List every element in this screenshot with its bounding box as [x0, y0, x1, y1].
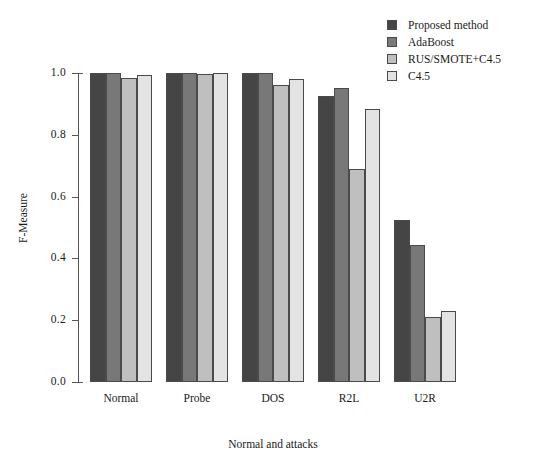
- y-axis-tick-label: 0.8: [0, 128, 66, 140]
- y-axis-tick: [72, 258, 78, 259]
- y-axis-tick: [72, 382, 78, 383]
- y-axis-tick-label: 0.4: [0, 251, 66, 263]
- bar-normal-3: [137, 75, 153, 382]
- legend-label: C4.5: [408, 70, 430, 82]
- bar-r2l-3: [365, 109, 381, 382]
- bar-r2l-2: [349, 169, 365, 382]
- y-axis-spine: [78, 73, 79, 382]
- x-axis-label-u2r: U2R: [387, 392, 463, 404]
- bar-u2r-3: [441, 311, 457, 382]
- x-axis-label-probe: Probe: [159, 392, 235, 404]
- legend-item: AdaBoost: [387, 34, 547, 50]
- legend-swatch-icon: [387, 71, 397, 81]
- bar-chart: 0.00.20.40.60.81.0 F-Measure NormalProbe…: [0, 0, 551, 469]
- bar-u2r-0: [394, 220, 410, 382]
- bar-u2r-1: [410, 245, 426, 383]
- legend-swatch-icon: [387, 37, 397, 47]
- bar-dos-3: [289, 79, 305, 382]
- bar-r2l-0: [318, 96, 334, 382]
- chart-legend: Proposed methodAdaBoostRUS/SMOTE+C4.5C4.…: [387, 17, 547, 85]
- y-axis-tick-label: 0.6: [0, 190, 66, 202]
- bar-dos-1: [258, 73, 274, 382]
- legend-item: Proposed method: [387, 17, 547, 33]
- legend-label: Proposed method: [408, 19, 488, 31]
- bar-u2r-2: [425, 317, 441, 382]
- bar-dos-0: [242, 73, 258, 382]
- bar-probe-3: [213, 73, 229, 382]
- legend-swatch-icon: [387, 20, 397, 30]
- x-axis-label-r2l: R2L: [311, 392, 387, 404]
- y-axis-tick: [72, 135, 78, 136]
- bar-dos-2: [273, 85, 289, 382]
- y-axis-tick: [72, 73, 78, 74]
- legend-label: RUS/SMOTE+C4.5: [408, 53, 501, 65]
- x-axis-label-normal: Normal: [83, 392, 159, 404]
- bar-probe-1: [182, 73, 198, 382]
- y-axis-tick-label: 0.0: [0, 375, 66, 387]
- x-axis-title: Normal and attacks: [83, 438, 463, 450]
- y-axis-tick: [72, 320, 78, 321]
- plot-area: [83, 73, 463, 382]
- legend-swatch-icon: [387, 54, 397, 64]
- y-axis-title: F-Measure: [17, 158, 29, 278]
- y-axis-tick: [72, 197, 78, 198]
- bar-normal-0: [90, 73, 106, 382]
- y-axis-tick-label: 1.0: [0, 66, 66, 78]
- y-axis-tick-label: 0.2: [0, 313, 66, 325]
- bar-probe-2: [197, 74, 213, 382]
- bar-normal-2: [121, 78, 137, 382]
- legend-label: AdaBoost: [408, 36, 454, 48]
- legend-item: RUS/SMOTE+C4.5: [387, 51, 547, 67]
- bar-normal-1: [106, 73, 122, 382]
- y-axis-cap-bottom: [78, 382, 83, 383]
- x-axis-label-dos: DOS: [235, 392, 311, 404]
- bar-probe-0: [166, 73, 182, 382]
- bar-r2l-1: [334, 88, 350, 382]
- legend-item: C4.5: [387, 68, 547, 84]
